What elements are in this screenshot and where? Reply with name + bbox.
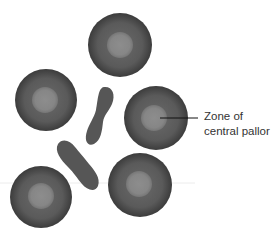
central-pallor xyxy=(126,171,152,197)
cell-bottom-right xyxy=(108,153,172,217)
central-pallor xyxy=(28,183,54,209)
cell-bottom-left xyxy=(10,166,72,228)
label-line-1: Zone of xyxy=(204,109,270,124)
sickle-cell-upper xyxy=(86,87,114,145)
cell-left xyxy=(15,69,77,131)
zone-of-central-pallor-label: Zone of central pallor xyxy=(204,109,270,139)
cell-top xyxy=(88,13,152,77)
central-pallor xyxy=(107,32,133,58)
label-line-2: central pallor xyxy=(204,124,270,139)
central-pallor xyxy=(32,87,58,113)
